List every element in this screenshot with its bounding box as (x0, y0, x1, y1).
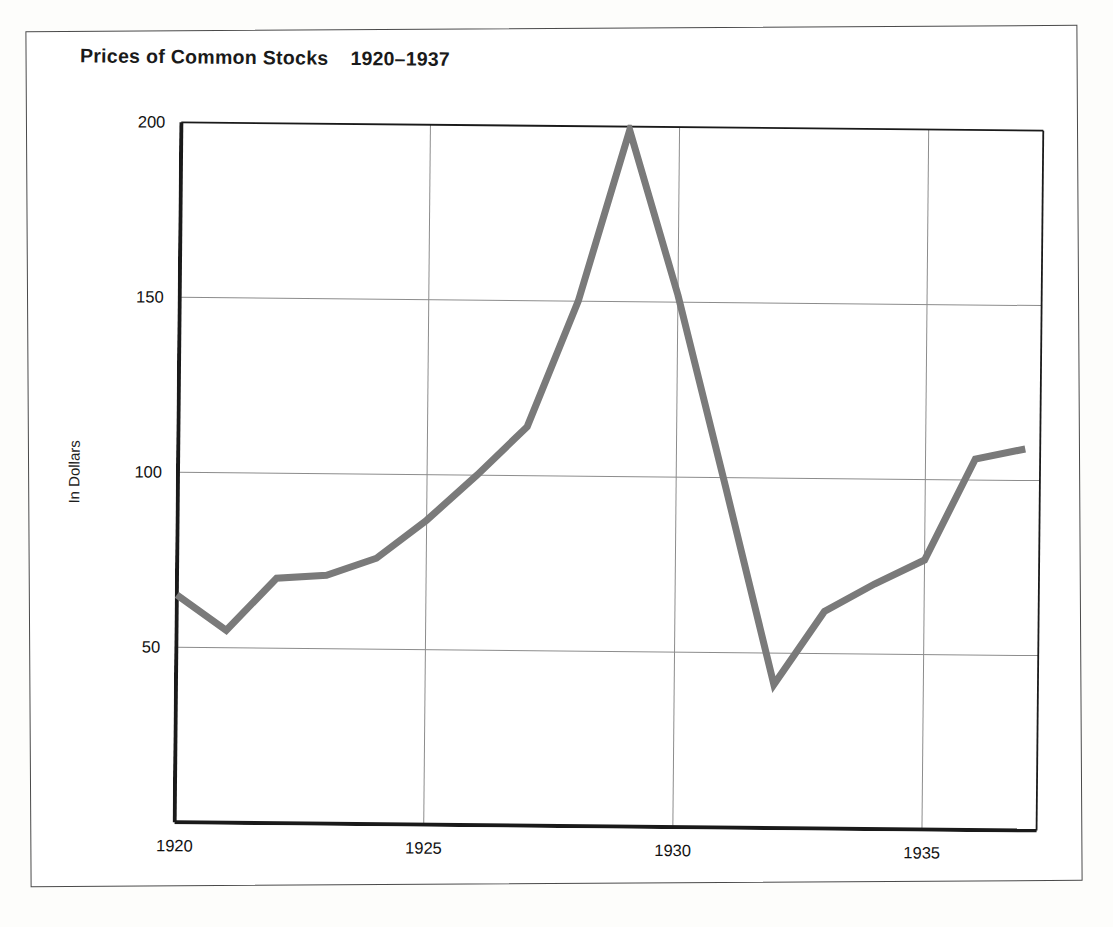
y-tick-label-100: 100 (134, 462, 162, 481)
chart-title-years: 1920–1937 (350, 47, 450, 70)
gridline-y-150 (180, 297, 1042, 305)
plot-area: 50100150200 1920192519301935 (173, 120, 1046, 832)
line-chart-svg (173, 120, 1046, 832)
frame-top-line (181, 122, 1043, 130)
x-tick-label-1925: 1925 (405, 839, 442, 858)
chart-title-main: Prices of Common Stocks (80, 44, 329, 68)
y-tick-label-150: 150 (136, 287, 164, 306)
y-axis-label: In Dollars (65, 392, 84, 552)
vertical-gridlines (424, 125, 929, 830)
figure: Prices of Common Stocks1920–1937 In Doll… (0, 0, 1113, 927)
page-canvas: Prices of Common Stocks1920–1937 In Doll… (0, 0, 1113, 927)
horizontal-gridlines (176, 297, 1041, 655)
data-series-line (176, 126, 1028, 687)
gridline-y-100 (178, 472, 1040, 480)
y-tick-label-50: 50 (142, 637, 161, 656)
x-tick-label-1920: 1920 (156, 836, 193, 855)
x-tick-label-1930: 1930 (654, 841, 691, 860)
y-tick-label-200: 200 (138, 112, 166, 131)
x-tick-label-1935: 1935 (903, 843, 940, 862)
chart-title: Prices of Common Stocks1920–1937 (80, 44, 450, 71)
x-axis-line (175, 822, 1037, 830)
gridline-y-50 (176, 647, 1038, 655)
